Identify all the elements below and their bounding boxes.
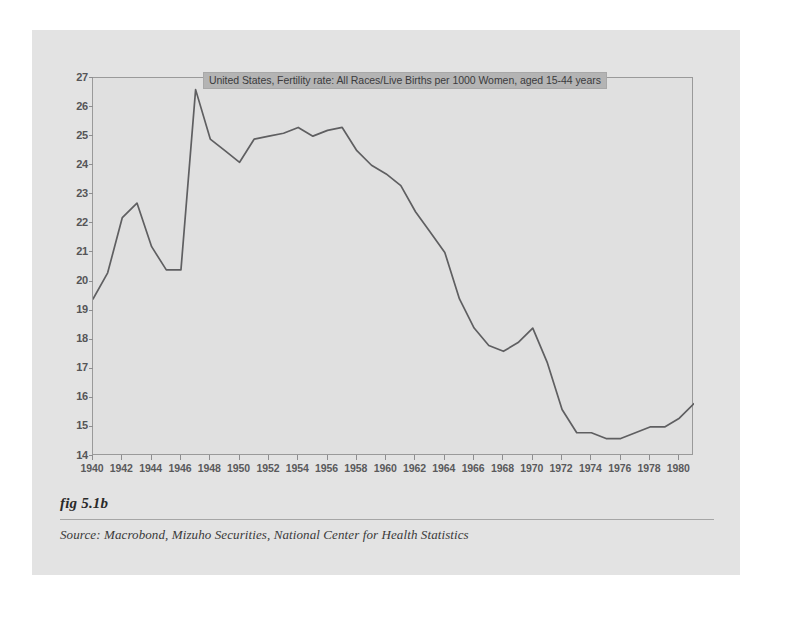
y-tick-label: 14	[66, 450, 88, 461]
y-tick-mark	[89, 310, 93, 311]
y-tick-label: 26	[66, 101, 88, 112]
x-tick-mark	[620, 455, 621, 460]
y-tick-label: 24	[66, 159, 88, 170]
x-tick-mark	[444, 455, 445, 460]
x-tick-mark	[561, 455, 562, 460]
y-tick-mark	[89, 426, 93, 427]
chart-plot-area	[92, 77, 693, 455]
fertility-rate-line-chart	[93, 78, 694, 456]
y-tick-label: 17	[66, 362, 88, 373]
figure-divider	[60, 519, 714, 520]
y-tick-mark	[89, 339, 93, 340]
y-tick-label: 27	[66, 72, 88, 83]
x-tick-mark	[151, 455, 152, 460]
y-tick-label: 21	[66, 246, 88, 257]
y-tick-mark	[89, 222, 93, 223]
y-tick-label: 20	[66, 275, 88, 286]
y-tick-mark	[89, 164, 93, 165]
figure-number-label: fig 5.1b	[60, 495, 108, 512]
x-tick-mark	[297, 455, 298, 460]
y-tick-label: 22	[66, 217, 88, 228]
y-tick-mark	[89, 368, 93, 369]
y-tick-label: 25	[66, 130, 88, 141]
y-tick-mark	[89, 106, 93, 107]
figure-source-note: Source: Macrobond, Mizuho Securities, Na…	[60, 527, 469, 543]
y-tick-label: 18	[66, 333, 88, 344]
x-tick-mark	[502, 455, 503, 460]
x-tick-mark	[590, 455, 591, 460]
x-tick-mark	[385, 455, 386, 460]
y-tick-mark	[89, 77, 93, 78]
y-tick-mark	[89, 135, 93, 136]
x-tick-mark	[532, 455, 533, 460]
x-axis-tick-labels: 1940194219441946194819501952195419561958…	[92, 462, 693, 478]
x-tick-mark	[239, 455, 240, 460]
y-tick-label: 16	[66, 391, 88, 402]
y-tick-label: 15	[66, 420, 88, 431]
x-tick-mark	[473, 455, 474, 460]
legend: United States, Fertility rate: All Races…	[203, 72, 607, 89]
y-tick-mark	[89, 397, 93, 398]
x-tick-mark	[414, 455, 415, 460]
x-tick-mark	[121, 455, 122, 460]
x-tick-mark	[327, 455, 328, 460]
legend-label: United States, Fertility rate: All Races…	[209, 73, 601, 88]
data-series-line	[93, 90, 694, 439]
y-tick-mark	[89, 251, 93, 252]
x-tick-mark	[92, 455, 93, 460]
x-tick-mark	[678, 455, 679, 460]
y-tick-label: 19	[66, 304, 88, 315]
figure-panel: 2726252423222120191817161514 19401942194…	[32, 30, 740, 575]
x-tick-mark	[649, 455, 650, 460]
y-axis-tick-labels: 2726252423222120191817161514	[58, 77, 88, 455]
y-tick-mark	[89, 281, 93, 282]
y-tick-label: 23	[66, 188, 88, 199]
x-tick-mark	[268, 455, 269, 460]
x-tick-mark	[209, 455, 210, 460]
x-tick-label: 1980	[658, 462, 698, 474]
y-tick-mark	[89, 193, 93, 194]
x-tick-mark	[356, 455, 357, 460]
x-tick-mark	[180, 455, 181, 460]
